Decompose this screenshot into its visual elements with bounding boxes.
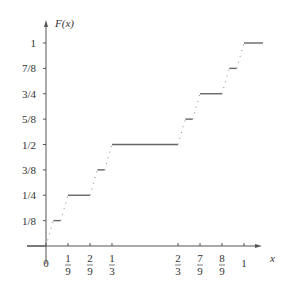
dotted-connector: [90, 170, 97, 195]
x-tick-denominator: 9: [197, 265, 203, 277]
x-tick-denominator: 9: [87, 265, 93, 277]
y-axis-arrow-icon: [44, 20, 48, 27]
x-tick-numerator: 1: [65, 252, 71, 264]
axes: [27, 20, 262, 264]
x-tick-numerator: 7: [197, 252, 203, 264]
y-tick-label: 3/8: [22, 164, 37, 176]
y-tick-label: 1/8: [22, 215, 37, 227]
dotted-connector: [61, 195, 68, 220]
x-tick-label: 0: [43, 257, 49, 269]
dotted-connector: [46, 221, 53, 246]
x-tick-denominator: 9: [219, 265, 225, 277]
x-tick-denominator: 3: [109, 265, 115, 277]
cantor-function-chart: 01929132379891 1/81/43/81/25/83/47/81 F(…: [0, 0, 289, 286]
y-ticks: 1/81/43/81/25/83/47/81: [22, 37, 46, 227]
y-tick-label: 1/2: [22, 139, 36, 151]
y-tick-label: 7/8: [22, 62, 37, 74]
x-axis-label: x: [269, 252, 275, 264]
x-tick-numerator: 2: [87, 252, 93, 264]
dotted-connector: [237, 43, 244, 68]
flat-segments: [27, 43, 263, 246]
dotted-connector: [178, 119, 185, 144]
x-axis-arrow-icon: [255, 244, 262, 248]
y-tick-label: 1/4: [22, 189, 37, 201]
x-tick-denominator: 9: [65, 265, 71, 277]
x-tick-numerator: 8: [219, 252, 225, 264]
x-tick-denominator: 3: [175, 265, 181, 277]
y-tick-label: 1: [31, 37, 37, 49]
y-tick-label: 3/4: [22, 88, 37, 100]
dotted-connector: [193, 94, 200, 119]
x-ticks: 01929132379891: [43, 243, 247, 277]
x-tick-label: 1: [241, 257, 247, 269]
dotted-connector: [222, 68, 229, 93]
dotted-connector: [105, 145, 112, 170]
y-axis-label: F(x): [54, 17, 74, 30]
x-tick-numerator: 1: [109, 252, 115, 264]
x-tick-numerator: 2: [175, 252, 181, 264]
y-tick-label: 5/8: [22, 113, 37, 125]
